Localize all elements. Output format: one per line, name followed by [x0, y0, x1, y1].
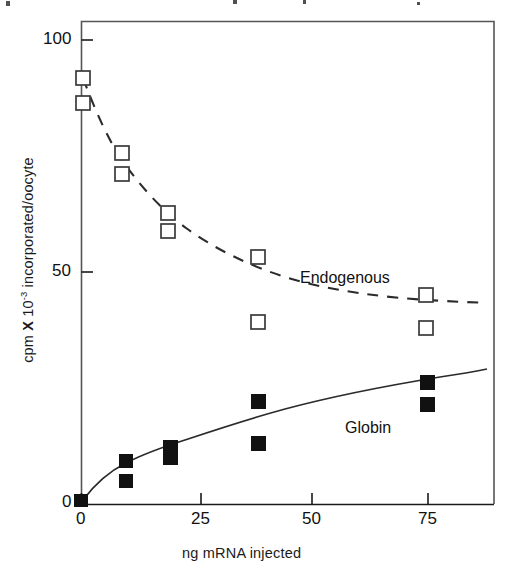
- y-axis-title-suffix: incorporated/oocyte: [20, 157, 36, 291]
- y-axis-title-mid: 10: [20, 300, 36, 321]
- y-tick-label-100: 100: [43, 29, 71, 49]
- data-point-open-square: [419, 288, 433, 302]
- data-point-filled-square: [420, 375, 435, 390]
- y-axis-title-times: X: [20, 321, 36, 331]
- x-axis-title: ng mRNA injected: [182, 545, 301, 561]
- data-point-filled-square: [119, 474, 133, 488]
- x-tick-label-50: 50: [302, 509, 321, 529]
- x-tick-label-25: 25: [191, 509, 210, 529]
- endogenous-data-points: [76, 71, 433, 335]
- x-tick-label-0: 0: [76, 509, 85, 529]
- data-point-open-square: [115, 146, 129, 160]
- plot-frame: [82, 22, 495, 505]
- data-point-filled-square: [74, 494, 88, 507]
- data-point-filled-square: [420, 397, 435, 412]
- y-tick-label-50: 50: [52, 261, 71, 281]
- data-point-open-square: [161, 224, 175, 238]
- series-label-endogenous: Endogenous: [300, 269, 390, 287]
- data-point-filled-square: [251, 394, 266, 409]
- data-point-open-square: [419, 321, 433, 335]
- y-axis-title-wrapper: cpm X 10-3 incorporated/oocyte: [14, 110, 40, 410]
- y-axis-title-exponent: -3: [18, 292, 29, 301]
- series-label-globin: Globin: [345, 419, 391, 437]
- y-axis-title-prefix: cpm: [20, 331, 36, 363]
- endogenous-fit-curve: [83, 78, 486, 303]
- data-point-open-square: [161, 206, 175, 220]
- globin-data-points: [74, 375, 435, 507]
- plot-canvas: [0, 0, 515, 588]
- data-point-open-square: [251, 250, 265, 264]
- figure-container: 100 50 0 0 25 50 75 ng mRNA injected cpm…: [0, 0, 515, 588]
- data-point-filled-square: [163, 450, 178, 465]
- x-axis-ticks: [82, 493, 429, 505]
- y-axis-title: cpm X 10-3 incorporated/oocyte: [18, 157, 36, 363]
- x-tick-label-75: 75: [418, 509, 437, 529]
- data-point-filled-square: [119, 454, 133, 468]
- y-tick-label-0: 0: [62, 492, 71, 512]
- data-point-filled-square: [251, 436, 266, 451]
- data-point-open-square: [251, 315, 265, 329]
- data-point-open-square: [76, 96, 90, 110]
- data-point-open-square: [76, 71, 90, 85]
- data-point-open-square: [115, 167, 129, 181]
